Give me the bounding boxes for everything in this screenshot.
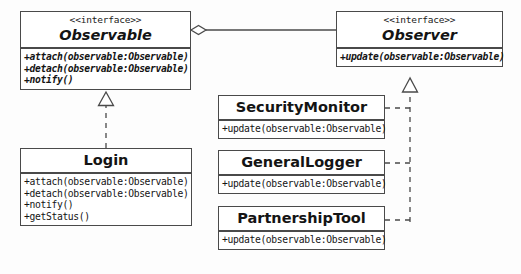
operation-item: +detach(observable:Observable) xyxy=(24,188,191,200)
operation-item: +update(observable:Observable) xyxy=(222,178,384,190)
class-header-generallogger: GeneralLogger xyxy=(219,151,384,176)
class-name-login: Login xyxy=(25,151,187,169)
class-header-partnershiptool: PartnershipTool xyxy=(219,207,384,232)
relationship-realization-login-observable xyxy=(99,92,114,148)
class-box-securitymonitor[interactable]: SecurityMonitor +update(observable:Obser… xyxy=(218,95,385,139)
operation-item: +update(observable:Observable) xyxy=(340,51,502,63)
class-header-securitymonitor: SecurityMonitor xyxy=(219,96,384,121)
class-box-partnershiptool[interactable]: PartnershipTool +update(observable:Obser… xyxy=(218,206,385,250)
class-name-observer: Observer xyxy=(341,26,498,44)
operations-compartment-generallogger: +update(observable:Observable) xyxy=(219,176,384,193)
relationship-realization-observers-trunk xyxy=(385,78,418,222)
operation-item: +attach(observable:Observable) xyxy=(24,51,190,63)
stereotype-label-observer: <<interface>> xyxy=(341,14,498,26)
class-box-generallogger[interactable]: GeneralLogger +update(observable:Observa… xyxy=(218,150,385,194)
class-box-login[interactable]: Login +attach(observable:Observable) +de… xyxy=(20,148,192,226)
operation-item: +getStatus() xyxy=(24,211,191,223)
class-box-observable[interactable]: <<interface>> Observable +attach(observa… xyxy=(20,11,191,90)
class-header-observer: <<interface>> Observer xyxy=(337,12,502,49)
class-header-login: Login xyxy=(21,149,191,174)
operations-compartment-login: +attach(observable:Observable) +detach(o… xyxy=(21,174,191,225)
class-header-observable: <<interface>> Observable xyxy=(21,12,190,49)
operations-compartment-observable: +attach(observable:Observable) +detach(o… xyxy=(21,49,190,89)
class-name-securitymonitor: SecurityMonitor xyxy=(223,98,380,116)
operations-compartment-observer: +update(observable:Observable) xyxy=(337,49,502,66)
hollow-triangle-marker-observer xyxy=(403,78,418,92)
operation-item: +update(observable:Observable) xyxy=(222,123,384,135)
operations-compartment-partnershiptool: +update(observable:Observable) xyxy=(219,232,384,249)
relationship-aggregation-observable-observer xyxy=(191,26,336,35)
operation-item: +update(observable:Observable) xyxy=(222,234,384,246)
operation-item: +attach(observable:Observable) xyxy=(24,176,191,188)
operation-item: +notify() xyxy=(24,199,191,211)
hollow-diamond-marker xyxy=(191,26,206,35)
uml-class-diagram: <<interface>> Observable +attach(observa… xyxy=(0,0,521,274)
class-name-partnershiptool: PartnershipTool xyxy=(223,209,380,227)
stereotype-label-observable: <<interface>> xyxy=(25,14,186,26)
class-name-observable: Observable xyxy=(25,26,186,44)
operations-compartment-securitymonitor: +update(observable:Observable) xyxy=(219,121,384,138)
class-name-generallogger: GeneralLogger xyxy=(223,153,380,171)
operation-item: +notify() xyxy=(24,74,190,86)
hollow-triangle-marker-observable xyxy=(99,92,114,106)
operation-item: +detach(observable:Observable) xyxy=(24,63,190,75)
class-box-observer[interactable]: <<interface>> Observer +update(observabl… xyxy=(336,11,503,67)
